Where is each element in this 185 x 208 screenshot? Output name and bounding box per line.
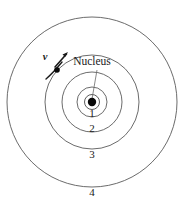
bohr-model-figure: Nucleus v 1 2 3 4 — [0, 0, 185, 208]
velocity-label: v — [43, 51, 48, 62]
shell-label-1: 1 — [89, 107, 95, 119]
nucleus-dot — [88, 98, 96, 106]
nucleus-label: Nucleus — [73, 55, 111, 67]
shell-label-4: 4 — [89, 186, 95, 198]
shell-label-3: 3 — [89, 148, 95, 160]
velocity-arrow-head-icon — [63, 52, 69, 57]
electron-dot — [54, 67, 60, 73]
shell-label-2: 2 — [89, 122, 95, 134]
bohr-model-canvas: Nucleus v 1 2 3 4 — [0, 0, 185, 208]
